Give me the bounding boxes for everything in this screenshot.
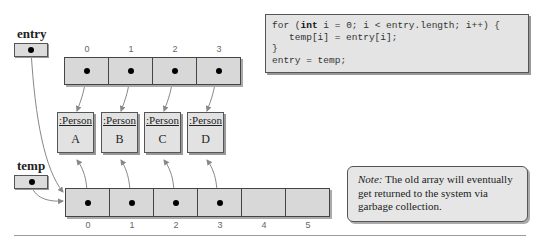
reference-dot [217,200,223,206]
temp-array-cell-4: 4 [242,189,286,216]
note-callout: Note: The old array will eventually get … [347,166,528,222]
entry-array: 0 1 2 3 [64,57,241,85]
temp-array-cell-2: 2 [154,189,198,216]
index-label: 1 [122,220,142,230]
code-snippet: for (int i = 0; i < entry.length; i++) {… [265,14,529,73]
person-name: A [58,132,93,147]
person-object-d: :Person D [187,112,224,153]
reference-dot [172,68,178,74]
person-object-a: :Person A [57,112,94,153]
reference-dot [128,68,134,74]
code-line-2: temp[i] = entry[i]; [272,32,522,44]
index-label: 4 [254,220,274,230]
note-text: The old array will eventually get return… [358,173,513,212]
temp-reference-box [14,175,48,189]
person-name: D [188,132,223,147]
temp-array-cell-5: 5 [286,189,329,216]
keyword-int: int [301,20,318,31]
index-label: 5 [298,220,318,230]
person-name: C [145,132,180,147]
code-line-1: for (int i = 0; i < entry.length; i++) { [272,20,522,32]
person-class-label: :Person [145,114,180,126]
index-label: 3 [210,220,230,230]
person-class-label: :Person [102,114,137,126]
temp-variable-label: temp [17,158,45,174]
person-object-b: :Person B [101,112,138,153]
person-object-c: :Person C [144,112,181,153]
entry-variable-label: entry [17,26,47,42]
index-label: 2 [166,220,186,230]
reference-dot [84,68,90,74]
code-line-3: } [272,43,522,55]
reference-dot [129,200,135,206]
entry-array-cell-0: 0 [65,58,109,84]
temp-array-cell-3: 3 [198,189,242,216]
temp-array-cell-0: 0 [66,189,110,216]
reference-dot [28,47,34,53]
reference-dot [29,179,35,185]
reference-dot [85,200,91,206]
index-label: 3 [209,44,229,54]
reference-dot [216,68,222,74]
person-name: B [102,132,137,147]
entry-array-cell-2: 2 [153,58,197,84]
index-label: 0 [77,44,97,54]
code-line-4: entry = temp; [272,55,522,67]
person-class-label: :Person [58,114,93,126]
index-label: 2 [165,44,185,54]
reference-dot [173,200,179,206]
entry-array-cell-3: 3 [197,58,240,84]
index-label: 0 [78,220,98,230]
temp-array-cell-1: 1 [110,189,154,216]
temp-array: 0 1 2 3 4 5 [65,188,330,217]
bottom-divider [14,235,526,236]
entry-reference-box [14,43,48,57]
entry-array-cell-1: 1 [109,58,153,84]
person-class-label: :Person [188,114,223,126]
index-label: 1 [121,44,141,54]
note-prefix: Note: [358,173,382,185]
